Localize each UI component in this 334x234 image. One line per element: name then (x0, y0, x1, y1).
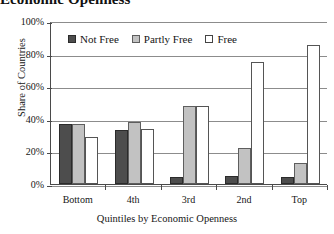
y-axis-tick-label: 100% (8, 17, 44, 27)
plot-area (50, 22, 327, 185)
bar-group (51, 23, 106, 184)
x-axis-tick (216, 185, 217, 190)
bar-group (106, 23, 161, 184)
x-axis-tick (105, 185, 106, 190)
x-axis-tick (272, 185, 273, 190)
legend-label: Not Free (80, 33, 119, 45)
bar (196, 106, 209, 184)
bar-group (217, 23, 272, 184)
gridline (51, 186, 327, 187)
x-axis-title: Quintiles by Economic Openness (0, 213, 334, 225)
legend-item: Free (205, 33, 237, 45)
bar (115, 130, 128, 184)
y-axis-tick-label: 80% (8, 50, 44, 60)
y-axis-tick-label: 20% (8, 147, 44, 157)
bar-group (162, 23, 217, 184)
bar (281, 177, 294, 184)
legend-label: Partly Free (144, 33, 193, 45)
bar (183, 106, 196, 184)
x-axis-tick-label: Top (264, 194, 334, 205)
y-axis-tick-label: 0% (8, 180, 44, 190)
legend-swatch-icon (68, 35, 76, 43)
bar-group-bars (217, 23, 272, 184)
bar (170, 177, 183, 184)
bar (225, 176, 238, 184)
bar (85, 137, 98, 184)
bar-group (273, 23, 328, 184)
x-axis-tick (327, 185, 328, 190)
legend-swatch-icon (205, 35, 213, 43)
bar (294, 163, 307, 184)
bar (141, 129, 154, 184)
bar (59, 124, 72, 184)
legend-swatch-icon (132, 35, 140, 43)
y-axis-tick (47, 186, 52, 187)
bar-group-bars (273, 23, 328, 184)
bar (307, 45, 320, 184)
bar (238, 148, 251, 184)
legend-item: Not Free (68, 33, 119, 45)
bar (128, 122, 141, 184)
y-axis-tick-label: 60% (8, 82, 44, 92)
chart-figure: Economic Openness Share of Countries 0%2… (0, 0, 334, 234)
bar-group-bars (106, 23, 161, 184)
legend-label: Free (217, 33, 237, 45)
bar-group-bars (162, 23, 217, 184)
bar (251, 62, 264, 184)
page-title: Economic Openness (0, 0, 334, 11)
x-axis-tick (161, 185, 162, 190)
y-axis-tick-label: 40% (8, 115, 44, 125)
bar (72, 124, 85, 184)
bar-group-bars (51, 23, 106, 184)
legend-item: Partly Free (132, 33, 193, 45)
chart-legend: Not FreePartly FreeFree (68, 33, 237, 45)
